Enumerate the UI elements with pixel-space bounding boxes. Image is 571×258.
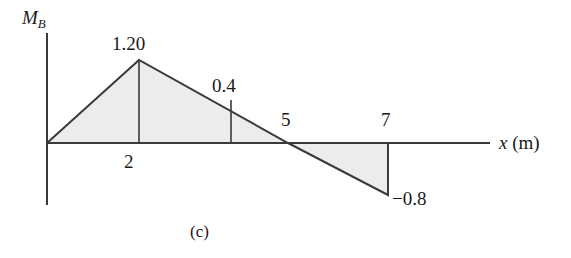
- x-axis-label-unit: (m): [512, 132, 539, 153]
- station-label-2: 2: [124, 152, 134, 171]
- y-axis-label: MB: [22, 8, 46, 27]
- positive-moment-area: [47, 60, 288, 143]
- y-axis-label-subscript: B: [38, 16, 46, 31]
- station-label-7: 7: [381, 110, 391, 129]
- station-label-5: 5: [281, 110, 291, 129]
- x-axis-label: x (m): [499, 133, 540, 152]
- x-axis-label-variable: x: [499, 132, 507, 153]
- bending-moment-diagram-figure: MB 1.20 0.4 5 7 2 −0.8 x (m) (c): [0, 0, 571, 258]
- y-axis-label-main: M: [22, 7, 38, 28]
- peak-value-label: 1.20: [112, 34, 145, 53]
- negative-value-label: −0.8: [392, 189, 426, 208]
- figure-caption: (c): [190, 223, 209, 240]
- mid-value-label: 0.4: [212, 76, 236, 95]
